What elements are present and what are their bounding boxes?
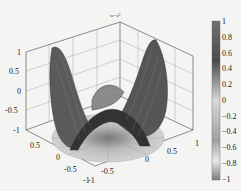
svg-text:0.4: 0.4: [222, 64, 232, 73]
svg-text:0.6: 0.6: [222, 49, 232, 58]
svg-text:0.5: 0.5: [167, 147, 177, 156]
svg-text:−0.2: −0.2: [222, 112, 237, 121]
svg-text:-1: -1: [13, 126, 20, 135]
svg-text:0: 0: [56, 153, 60, 162]
svg-text:1: 1: [17, 48, 21, 57]
svg-text:0: 0: [222, 96, 226, 105]
svg-text:0.5: 0.5: [9, 67, 19, 76]
svg-text:0.5: 0.5: [30, 141, 40, 150]
z-axis-ticks: 1 0.5 0 -0.5 -1: [5, 48, 21, 135]
svg-text:0.8: 0.8: [222, 33, 232, 42]
chart-title: w=z³: [110, 13, 121, 18]
colorbar-ticks: 1 0.8 0.6 0.4 0.2 0 −0.2 −0.4 −0.6 −0.8 …: [222, 17, 237, 184]
svg-text:0.2: 0.2: [222, 80, 232, 89]
svg-text:0: 0: [17, 87, 21, 96]
svg-text:−1: −1: [222, 175, 231, 184]
svg-text:1: 1: [195, 139, 199, 148]
colorbar: [212, 21, 220, 180]
svg-text:-1: -1: [88, 176, 95, 185]
svg-text:−0.4: −0.4: [222, 127, 237, 136]
svg-text:-0.5: -0.5: [5, 106, 18, 115]
svg-text:-0.5: -0.5: [64, 165, 77, 174]
chart-root: w=z³ 1 0.5 0 -0.5 -1 0.5 0 -0.5 -1 -1 -0…: [0, 0, 241, 191]
svg-text:0: 0: [145, 155, 149, 164]
svg-text:1: 1: [222, 17, 226, 26]
svg-text:−0.8: −0.8: [222, 159, 237, 168]
svg-text:-0.5: -0.5: [101, 167, 114, 176]
surface-plot: w=z³ 1 0.5 0 -0.5 -1 0.5 0 -0.5 -1 -1 -0…: [0, 0, 241, 191]
svg-text:−0.6: −0.6: [222, 143, 237, 152]
